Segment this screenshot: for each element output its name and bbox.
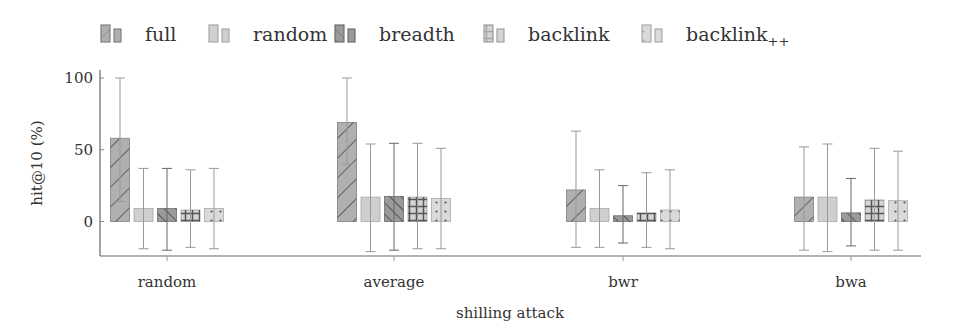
x-tick-label-bwa: bwa (835, 273, 866, 291)
bar-group-bwr (567, 131, 680, 249)
x-tick-label-bwr: bwr (608, 273, 638, 291)
bar-group-average (338, 78, 451, 252)
y-tick-label: 50 (74, 141, 93, 159)
legend-item-full: full (101, 23, 176, 45)
legend-label: backlink (528, 23, 610, 45)
legend: fullrandombreadthbacklinkbacklink++ (101, 23, 789, 49)
x-ticks: randomaveragebwrbwa (138, 256, 867, 291)
legend-swatch-pattern (335, 25, 344, 42)
bar-group-random (111, 78, 224, 250)
legend-swatch-pattern (101, 25, 110, 42)
legend-item-random: random (209, 23, 327, 45)
legend-swatch (209, 25, 218, 42)
axes (100, 70, 921, 256)
y-ticks: 050100 (64, 69, 104, 231)
legend-swatch (655, 29, 662, 42)
x-tick-label-average: average (364, 273, 425, 291)
bar-group-bwa (795, 144, 908, 252)
legend-item-backlink-plus-plus: backlink++ (642, 23, 789, 49)
legend-swatch-pattern (642, 25, 651, 42)
bar-chart: fullrandombreadthbacklinkbacklink++ 0501… (0, 0, 962, 333)
legend-swatch (348, 29, 355, 42)
y-tick-label: 100 (64, 69, 93, 87)
x-axis-label: shilling attack (456, 304, 565, 322)
legend-swatch (222, 29, 229, 42)
y-axis-label: hit@10 (%) (28, 120, 46, 205)
y-tick-label: 0 (83, 213, 93, 231)
legend-swatch (497, 29, 504, 42)
legend-item-breadth: breadth (335, 23, 455, 45)
legend-label: random (253, 23, 327, 45)
x-tick-label-random: random (138, 273, 197, 291)
legend-label-subscript: ++ (768, 34, 790, 49)
legend-swatch-pattern (484, 25, 493, 42)
legend-label: full (145, 23, 176, 45)
legend-label: breadth (379, 23, 455, 45)
legend-swatch (114, 29, 121, 42)
bars (111, 78, 908, 252)
legend-label: backlink++ (686, 23, 789, 49)
legend-item-backlink: backlink (484, 23, 610, 45)
